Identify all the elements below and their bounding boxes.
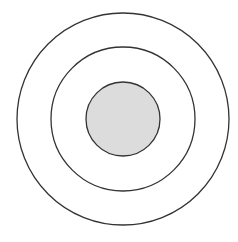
inner-core [86,82,160,156]
concentric-circles-diagram [0,0,238,242]
